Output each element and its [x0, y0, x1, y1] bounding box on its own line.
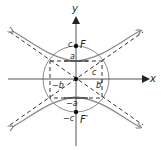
focus-bottom-point [74, 110, 78, 114]
focus-bottom-label: F′ [80, 114, 89, 125]
c-diagonal-label: c [92, 68, 97, 77]
focus-top-label: F [80, 39, 86, 50]
b-negative-label: −b [52, 81, 64, 90]
focus-bottom-value-label: −c [63, 114, 75, 123]
hyperbola-diagram: y x c F −c F′ a −a −b b c [0, 0, 161, 151]
vertex-top-label: a [70, 52, 75, 61]
x-axis-label: x [149, 73, 156, 84]
y-axis-label: y [71, 3, 79, 14]
vertex-bottom-label: −a [66, 99, 78, 108]
focus-top-value-label: c [68, 40, 73, 49]
focus-top-point [74, 44, 78, 48]
diagram-canvas: y x c F −c F′ a −a −b b c [0, 0, 161, 151]
origin-point [74, 77, 78, 81]
b-positive-label: b [96, 81, 101, 90]
